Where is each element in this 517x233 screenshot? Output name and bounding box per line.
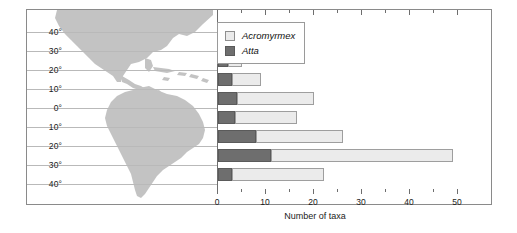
latitude-label-30n: 30°	[32, 46, 62, 56]
bar-segment-acromyrmex	[237, 92, 314, 105]
x-tick-minor-5	[241, 10, 242, 13]
bar-segment-atta	[218, 149, 271, 162]
latitude-label-40s: 40°	[32, 179, 62, 189]
bar-segment-atta	[218, 92, 237, 105]
chart-legend: Acromyrmex Atta	[217, 22, 305, 64]
x-tick-30	[361, 10, 362, 15]
latitude-label-10s: 10°	[32, 122, 62, 132]
x-tick-minor-25	[337, 10, 338, 13]
latitude-label-10n: 10°	[32, 84, 62, 94]
x-axis-label-30: 30	[346, 197, 376, 207]
x-tick-bottom-20	[313, 189, 314, 194]
bar-segment-atta	[218, 168, 232, 181]
x-axis-label-40: 40	[394, 197, 424, 207]
x-tick-bottom-minor-45	[433, 189, 434, 192]
x-tick-bottom-50	[457, 189, 458, 194]
x-tick-bottom-minor-35	[385, 189, 386, 192]
x-axis-label-20: 20	[298, 197, 328, 207]
x-tick-40	[409, 10, 410, 15]
bar-segment-acromyrmex	[271, 149, 453, 162]
figure-map-and-bar-chart: 40° 30° 20° 10° 0° 10° 20° 30° 40°	[0, 0, 517, 233]
legend-item-atta: Atta	[225, 43, 295, 58]
legend-swatch-acromyrmex-icon	[225, 31, 235, 41]
x-tick-minor-15	[289, 10, 290, 13]
bar-segment-atta	[218, 111, 235, 124]
x-tick-minor-35	[385, 10, 386, 13]
latitude-label-0: 0°	[32, 103, 62, 113]
latitude-label-30s: 30°	[32, 160, 62, 170]
bar-segment-atta	[218, 130, 256, 143]
x-tick-bottom-40	[409, 189, 410, 194]
map-pane-americas: 40° 30° 20° 10° 0° 10° 20° 30° 40°	[27, 10, 217, 204]
x-tick-20	[313, 10, 314, 15]
legend-swatch-atta-icon	[225, 46, 235, 56]
x-tick-10	[265, 10, 266, 15]
bar-segment-acromyrmex	[235, 111, 297, 124]
x-tick-bottom-minor-5	[241, 189, 242, 192]
legend-label-atta: Atta	[242, 45, 259, 56]
x-axis-title: Number of taxa	[215, 211, 415, 221]
x-tick-0	[217, 10, 218, 15]
bar-segment-acromyrmex	[232, 168, 323, 181]
x-tick-bottom-10	[265, 189, 266, 194]
x-tick-50	[457, 10, 458, 15]
bar-segment-atta	[218, 73, 232, 86]
latitude-label-20n: 20°	[32, 65, 62, 75]
bar-segment-acromyrmex	[256, 130, 342, 143]
x-axis-label-0: 0	[202, 197, 232, 207]
legend-item-acromyrmex: Acromyrmex	[225, 28, 295, 43]
latitude-label-40n: 40°	[32, 27, 62, 37]
x-axis-label-10: 10	[250, 197, 280, 207]
legend-label-acromyrmex: Acromyrmex	[242, 30, 295, 41]
bar-segment-acromyrmex	[232, 73, 261, 86]
x-tick-bottom-minor-15	[289, 189, 290, 192]
x-axis-label-50: 50	[442, 197, 472, 207]
x-tick-bottom-0	[217, 189, 218, 194]
latitude-label-20s: 20°	[32, 141, 62, 151]
x-tick-bottom-30	[361, 189, 362, 194]
x-tick-bottom-minor-25	[337, 189, 338, 192]
figure-panel: 40° 30° 20° 10° 0° 10° 20° 30° 40°	[26, 9, 492, 205]
x-tick-minor-45	[433, 10, 434, 13]
